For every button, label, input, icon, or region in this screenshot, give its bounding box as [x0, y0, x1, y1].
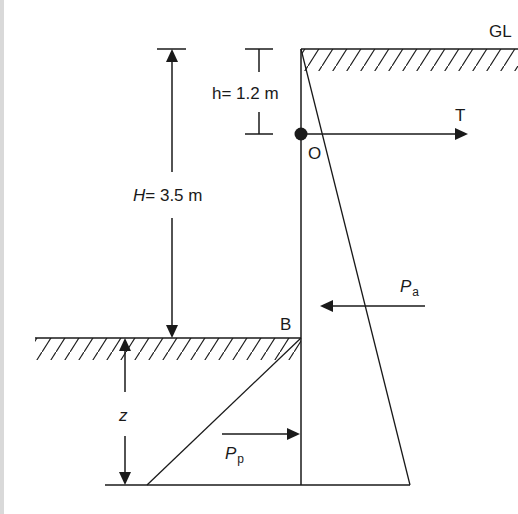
T-arrowhead-right-icon — [455, 128, 468, 140]
Pa-arrowhead-left-icon — [320, 300, 333, 312]
anchor-force-label: T — [455, 107, 465, 124]
passive-force-main: P — [225, 444, 236, 463]
active-pressure-line — [301, 49, 410, 485]
Pp-arrowhead-right-icon — [287, 428, 300, 440]
anchor-height-label: h= 1.2 m — [212, 85, 279, 102]
active-force-sub: a — [412, 285, 419, 299]
z-arrowhead-down-icon — [119, 472, 131, 485]
retained-height-label: H= 3.5 m — [133, 187, 202, 204]
ground-hatch-dredge — [35, 338, 301, 360]
retained-height-value: = 3.5 m — [145, 186, 202, 205]
dredge-point-label: B — [280, 316, 291, 333]
ground-level-label: GL — [489, 23, 512, 40]
passive-force-sub: p — [237, 452, 244, 466]
ground-hatch-top — [302, 49, 518, 71]
passive-pressure-line — [147, 338, 301, 485]
active-force-label: Pa — [400, 278, 419, 295]
anchor-height-value: = 1.2 m — [221, 84, 278, 103]
retained-height-var: H — [133, 186, 145, 205]
H-arrowhead-up-icon — [166, 49, 178, 62]
H-arrowhead-down-icon — [166, 325, 178, 338]
anchor-point-dot-icon — [295, 128, 308, 141]
diagram-canvas — [0, 0, 518, 514]
anchor-point-label: O — [308, 145, 321, 162]
active-force-main: P — [400, 277, 411, 296]
passive-force-label: Pp — [225, 445, 244, 462]
embedment-depth-label: z — [119, 407, 128, 424]
